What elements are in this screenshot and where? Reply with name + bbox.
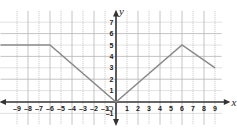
graph: xy–9–8–7–6–5–4–3–2–1123456789–11234567O	[0, 0, 237, 128]
x-tick-label: 5	[169, 105, 173, 112]
data-series	[1, 45, 216, 102]
x-axis-label: x	[231, 96, 237, 108]
x-tick-label: –7	[35, 105, 43, 112]
y-tick-label: 5	[110, 42, 114, 49]
x-tick-label: –5	[57, 105, 65, 112]
y-tick-label: 1	[110, 87, 114, 94]
x-tick-label: 2	[136, 105, 140, 112]
y-axis-label: y	[118, 5, 124, 17]
x-tick-label: 7	[191, 105, 195, 112]
x-tick-label: 4	[158, 105, 162, 112]
origin-label: O	[107, 104, 113, 113]
y-axis-arrow-down-icon	[113, 119, 119, 126]
x-tick-label: –3	[79, 105, 87, 112]
x-axis-arrow-icon	[224, 99, 231, 105]
x-tick-label: 1	[125, 105, 129, 112]
y-tick-label: 7	[110, 19, 114, 26]
x-tick-label: 6	[180, 105, 184, 112]
y-tick-label: 2	[110, 76, 114, 83]
x-tick-label: –9	[13, 105, 21, 112]
x-tick-label: –8	[24, 105, 32, 112]
x-tick-label: –6	[46, 105, 54, 112]
x-tick-label: –2	[90, 105, 98, 112]
function-line	[1, 45, 216, 102]
y-tick-label: 6	[110, 30, 114, 37]
x-tick-label: 9	[213, 105, 217, 112]
y-tick-label: 4	[110, 53, 114, 60]
x-tick-label: 3	[147, 105, 151, 112]
x-tick-label: –4	[68, 105, 76, 112]
x-axis-arrow-left-icon	[0, 99, 6, 105]
y-tick-label: 3	[110, 64, 114, 71]
x-tick-label: 8	[202, 105, 206, 112]
